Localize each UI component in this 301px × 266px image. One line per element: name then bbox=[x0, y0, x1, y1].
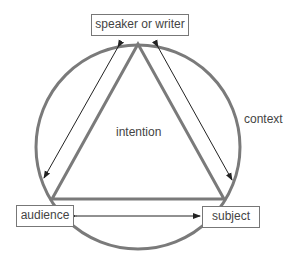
node-audience: audience bbox=[16, 205, 74, 227]
arrow-speaker-subject bbox=[158, 47, 232, 180]
arrow-speaker-audience bbox=[44, 47, 118, 178]
context-label: context bbox=[244, 112, 283, 126]
intention-triangle bbox=[52, 44, 224, 199]
node-subject: subject bbox=[202, 206, 260, 228]
intention-label: intention bbox=[116, 125, 161, 139]
node-speaker-or-writer: speaker or writer bbox=[91, 14, 189, 36]
